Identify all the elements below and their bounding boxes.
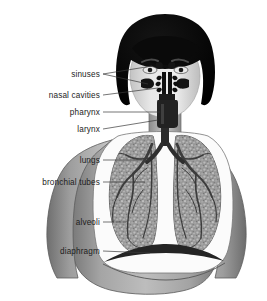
head-group bbox=[116, 14, 215, 128]
label-larynx: larynx bbox=[77, 125, 100, 134]
diagram-canvas: sinuses nasal cavities pharynx larynx lu… bbox=[0, 0, 267, 301]
pupil-left bbox=[148, 68, 153, 73]
sinus-right-upper bbox=[168, 62, 175, 69]
label-diaphragm: diaphragm bbox=[60, 247, 100, 256]
label-lungs: lungs bbox=[80, 156, 100, 165]
pupil-right bbox=[179, 68, 184, 73]
label-sinuses: sinuses bbox=[71, 70, 100, 79]
label-bronchial-tubes: bronchial tubes bbox=[42, 178, 100, 187]
sinus-left-upper bbox=[156, 62, 163, 69]
respiratory-system-diagram: sinuses nasal cavities pharynx larynx lu… bbox=[0, 0, 267, 301]
larynx bbox=[157, 100, 178, 128]
label-pharynx: pharynx bbox=[70, 108, 100, 117]
larynx-highlight bbox=[161, 104, 164, 124]
label-alveoli: alveoli bbox=[76, 218, 100, 227]
label-nasal-cavities: nasal cavities bbox=[49, 91, 100, 100]
